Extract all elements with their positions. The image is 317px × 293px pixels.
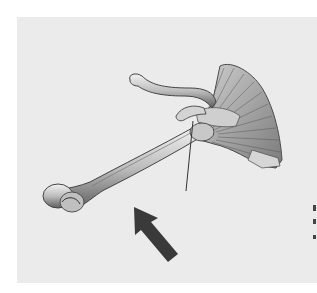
arrow-icon [134, 207, 178, 262]
cropped-caption-fragment [313, 205, 317, 245]
clavicle [130, 74, 216, 108]
anatomy-illustration [0, 0, 317, 293]
scapula [196, 64, 282, 168]
